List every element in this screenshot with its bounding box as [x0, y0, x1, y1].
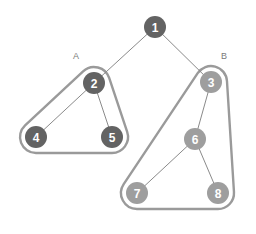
cluster-label-a: A: [73, 51, 79, 61]
edge-1-3: [155, 27, 211, 82]
edge-2-4: [36, 83, 94, 137]
node-5[interactable]: 5: [101, 126, 123, 148]
node-circle-5[interactable]: [101, 126, 123, 148]
node-6[interactable]: 6: [184, 128, 206, 150]
node-circle-2[interactable]: [83, 72, 105, 94]
edge-6-7: [137, 139, 195, 193]
node-3[interactable]: 3: [200, 71, 222, 93]
node-circle-8[interactable]: [207, 182, 229, 204]
node-circle-4[interactable]: [25, 126, 47, 148]
node-8[interactable]: 8: [207, 182, 229, 204]
graph-diagram: 12345678 AB: [0, 0, 256, 234]
graph-canvas: 12345678 AB: [0, 0, 256, 234]
node-1[interactable]: 1: [144, 16, 166, 38]
edge-layer: [36, 27, 218, 193]
cluster-label-b: B: [221, 51, 227, 61]
node-circle-6[interactable]: [184, 128, 206, 150]
node-circle-7[interactable]: [126, 182, 148, 204]
node-7[interactable]: 7: [126, 182, 148, 204]
cluster-label-layer: AB: [73, 51, 227, 61]
node-2[interactable]: 2: [83, 72, 105, 94]
node-4[interactable]: 4: [25, 126, 47, 148]
node-circle-1[interactable]: [144, 16, 166, 38]
node-layer: 12345678: [25, 16, 229, 204]
edge-1-2: [94, 27, 155, 83]
node-circle-3[interactable]: [200, 71, 222, 93]
